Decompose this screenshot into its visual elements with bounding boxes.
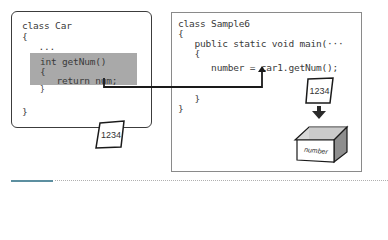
right-return-value-card: 1234 xyxy=(307,80,332,102)
footer-accent-bar xyxy=(11,180,53,182)
left-return-value-card: 1234 xyxy=(99,123,123,147)
down-arrow-icon xyxy=(312,111,326,119)
footer-dotted-rule xyxy=(55,180,388,181)
up-arrow-icon xyxy=(258,66,266,72)
